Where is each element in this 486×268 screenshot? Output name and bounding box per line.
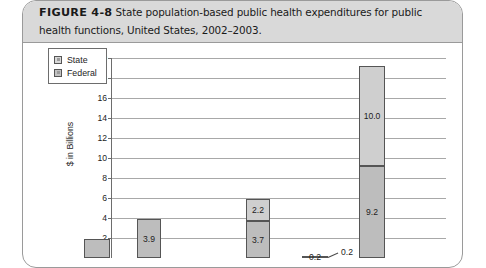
bar-5: 9.210.0 [359,58,385,258]
gridline [112,238,446,239]
figure-caption: FIGURE 4-8 State population-based public… [39,4,440,38]
bar-segment-federal: 2.2 [246,199,270,221]
bar-4: 0.2 [302,58,328,258]
bar-segment-state: 3.9 [137,219,161,258]
federal-swatch-icon [54,69,62,77]
bar-2: 3.9 [137,58,161,258]
figure-caption-band: FIGURE 4-8 State population-based public… [23,1,462,43]
gridline [112,138,446,139]
figure-number-label: FIGURE 4-8 [39,6,112,19]
bar-value-label: 0.2 [309,252,321,262]
chart-canvas: $ in Billions 2018161412108642 3.93.72.2… [23,43,462,268]
gridline [112,98,446,99]
gridline [112,198,446,199]
figure-container: FIGURE 4-8 State population-based public… [22,0,463,268]
gridline [112,78,446,79]
legend-item-state: State [54,53,97,66]
bar-value-label: 3.7 [252,235,264,245]
chart-legend: State Federal [48,48,107,84]
bar-segment-state: 9.2 [359,166,385,258]
bar-value-label: 2.2 [252,205,264,215]
bar-value-label: 3.9 [143,234,155,244]
legend-item-federal: Federal [54,66,97,79]
bar-value-label: 9.2 [366,207,378,217]
legend-label-federal: Federal [67,68,97,78]
state-swatch-icon [54,56,62,64]
gridline [112,58,446,59]
bar-segment-state: 3.7 [246,221,270,258]
bar-1 [84,58,110,258]
gridline [112,118,446,119]
annotation-leader-line [328,253,338,258]
bar-segment-federal: 10.0 [359,66,385,166]
gridline [112,158,446,159]
plot-area: 3.93.72.20.29.210.00.2 [111,58,446,258]
bar-segment-state: 0.2 [302,256,328,258]
legend-label-state: State [67,55,88,65]
gridline [112,218,446,219]
bar-segment-state [84,239,110,258]
y-axis-title: $ in Billions [65,89,75,199]
gridline [112,178,446,179]
bar-value-label: 10.0 [364,111,381,121]
bar-3: 3.72.2 [246,58,270,258]
annotation-label-0-2: 0.2 [341,247,353,257]
